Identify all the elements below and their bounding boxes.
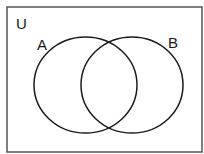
- venn-diagram: U A B: [0, 0, 204, 154]
- set-b-label: B: [168, 34, 178, 51]
- universe-label: U: [16, 15, 27, 32]
- set-a-label: A: [37, 36, 47, 53]
